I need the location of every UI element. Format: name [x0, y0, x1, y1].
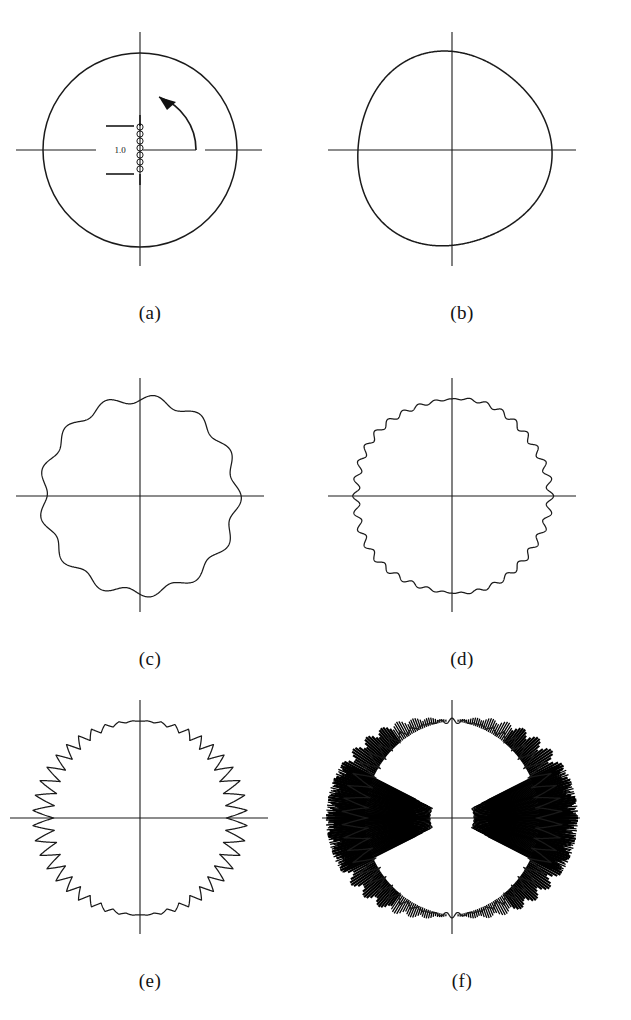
panel-d-svg [312, 360, 612, 645]
panel-d: (d) [312, 360, 612, 690]
scale-label: 1.0 [114, 145, 126, 155]
panel-f-caption: (f) [312, 970, 612, 992]
panel-a: 1.0 (a) [0, 14, 300, 344]
angle-arrow [159, 97, 196, 150]
spike [477, 909, 479, 916]
panel-b-svg [312, 14, 612, 299]
panel-d-axes [328, 378, 576, 612]
panel-b-curve [358, 51, 552, 246]
panel-f-svg [312, 682, 612, 967]
panel-e-plot [0, 682, 300, 967]
panel-d-plot [312, 360, 612, 645]
panel-d-caption: (d) [312, 648, 612, 670]
panel-c: (c) [0, 360, 300, 690]
panel-c-axes [16, 378, 264, 612]
panel-a-svg: 1.0 [0, 14, 300, 299]
panel-f-plot [312, 682, 612, 967]
spike [476, 910, 478, 917]
scale-bar: 1.0 [106, 115, 140, 185]
arrow-head-icon [159, 97, 176, 110]
panel-c-plot [0, 360, 300, 645]
panel-e-svg [0, 682, 300, 967]
panel-e-caption: (e) [0, 970, 300, 992]
figure-root: 1.0 (a) [0, 0, 631, 1020]
panel-a-caption: (a) [0, 302, 300, 324]
panel-e: (e) [0, 682, 300, 1012]
panel-c-svg [0, 360, 300, 645]
panel-a-axes [16, 32, 262, 266]
panel-c-caption: (c) [0, 648, 300, 670]
panel-b-axes [328, 32, 576, 266]
panel-b-plot [312, 14, 612, 299]
panel-a-plot: 1.0 [0, 14, 300, 299]
panel-f: (f) [312, 682, 612, 1012]
panel-b: (b) [312, 14, 612, 344]
panel-b-caption: (b) [312, 302, 612, 324]
